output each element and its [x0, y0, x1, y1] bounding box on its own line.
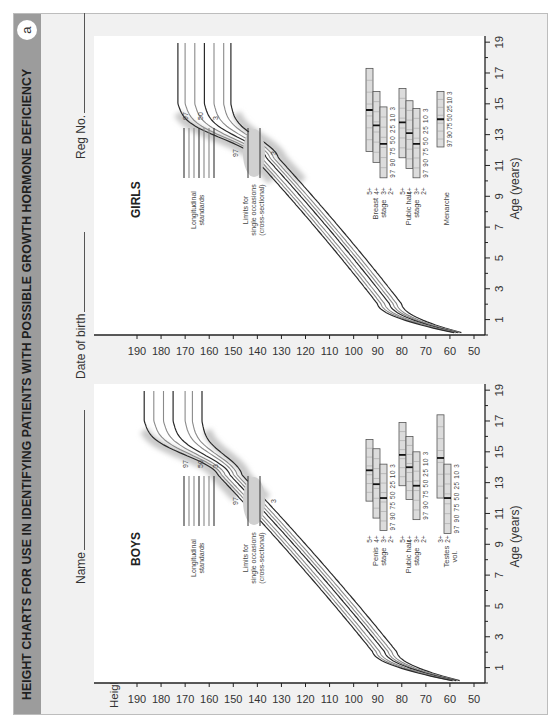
- x-tick-label: 7: [493, 224, 505, 230]
- x-tick-label: 1: [493, 316, 505, 322]
- legend-mark: 50: [197, 112, 204, 120]
- boys-chart: 5060708090100110120130140150160170180190…: [94, 384, 522, 705]
- y-tick-label: 170: [176, 693, 194, 705]
- y-tick-label: 110: [321, 693, 339, 705]
- x-tick-label: 5: [493, 255, 505, 261]
- y-tick-label: 50: [468, 345, 480, 357]
- centile-scale: 97 90 75 50 25 10 3: [389, 106, 396, 177]
- y-tick-label: 110: [321, 345, 339, 357]
- y-tick-label: 50: [468, 693, 480, 705]
- legend-mark: 97: [182, 460, 189, 468]
- stage-label: 2+: [420, 535, 427, 543]
- x-tick-label: 1: [493, 664, 505, 670]
- legend-band-swatch: [243, 477, 265, 525]
- centile-scale: 97 90 75 50 25 10 3: [453, 464, 460, 534]
- y-tick-label: 150: [224, 345, 242, 357]
- y-tick-label: 160: [200, 693, 218, 705]
- legend-mark: 97: [182, 112, 189, 120]
- x-tick-label: 5: [493, 603, 505, 609]
- stage-label: 4+: [373, 187, 380, 195]
- y-tick-label: 170: [176, 345, 194, 357]
- centile-scale: 97 90 75 50 25 10 3: [422, 108, 429, 178]
- puberty-bar: [380, 107, 387, 178]
- puberty-label: vol.: [450, 551, 459, 563]
- stage-label: 5+: [366, 187, 373, 195]
- y-tick-label: 90: [372, 693, 384, 705]
- x-tick-label: 3: [493, 286, 505, 292]
- legend-band-swatch: [243, 129, 265, 177]
- legend-cross-label: Limits for: [242, 543, 249, 572]
- chart-title: BOYS: [129, 532, 143, 566]
- stage-label: 3+: [380, 535, 387, 543]
- x-tick-label: 17: [493, 67, 505, 80]
- stage-label: 5+: [366, 535, 373, 543]
- x-tick-label: 15: [493, 97, 505, 110]
- svg-text:standards: standards: [198, 194, 205, 225]
- stage-label: 2+: [387, 535, 394, 543]
- puberty-label: stage: [379, 547, 388, 565]
- y-tick-label: 70: [420, 693, 432, 705]
- stage-label: 4+: [406, 187, 413, 195]
- x-tick-label: 11: [493, 507, 505, 519]
- x-tick-label: 15: [493, 445, 505, 458]
- y-tick-label: 130: [272, 693, 290, 705]
- chart-title: GIRLS: [129, 181, 143, 218]
- legend-cross-label: single occasions: [250, 532, 258, 584]
- centile-scale: 97 90 75 50 25 10 3: [446, 91, 453, 147]
- y-tick-label: 160: [200, 345, 218, 357]
- x-tick-label: 19: [493, 384, 505, 397]
- y-tick-label: 130: [272, 345, 290, 357]
- stage-label: 4+: [406, 535, 413, 543]
- chart-page: HEIGHT CHARTS FOR USE IN IDENTIFYING PAT…: [13, 13, 548, 715]
- legend-mark: 97: [232, 149, 239, 157]
- puberty-label: stage: [412, 199, 421, 217]
- y-tick-label: 100: [344, 345, 362, 357]
- stage-label: 5+: [399, 535, 406, 543]
- y-tick-label: 60: [444, 345, 456, 357]
- x-tick-label: 13: [493, 476, 505, 489]
- y-tick-label: 180: [152, 345, 170, 357]
- puberty-label: stage: [379, 199, 388, 217]
- puberty-bar: [373, 91, 380, 162]
- puberty-label: stage: [412, 547, 421, 565]
- legend-mark: 3: [212, 464, 219, 468]
- y-tick-label: 60: [444, 693, 456, 705]
- x-axis-label: Age (years): [508, 506, 522, 568]
- y-tick-label: 70: [420, 345, 432, 357]
- y-tick-label: 120: [296, 345, 314, 357]
- centile-scale: 97 90 75 50 25 10 3: [389, 464, 396, 531]
- x-tick-label: 9: [493, 541, 505, 547]
- y-tick-label: 140: [248, 345, 266, 357]
- legend-longitudinal-label: Longitudinal: [190, 539, 198, 577]
- puberty-label: Menarche: [442, 192, 451, 225]
- legend-mark: 50: [197, 460, 204, 468]
- y-tick-label: 80: [396, 693, 408, 705]
- legend-cross-label: single occasions: [250, 184, 258, 236]
- legend-longitudinal-label: Longitudinal: [190, 191, 198, 229]
- svg-text:standards: standards: [198, 542, 205, 573]
- plot-area: [94, 36, 485, 335]
- stage-label: 4+: [373, 535, 380, 543]
- legend-mark: 3: [212, 116, 219, 120]
- legend-cross-label: (cross-sectional): [258, 532, 266, 583]
- plot-area: [94, 384, 485, 683]
- x-tick-label: 13: [493, 128, 505, 141]
- centile-scale: 97 90 75 50 25 10 3: [422, 451, 429, 519]
- y-tick-label: 140: [248, 693, 266, 705]
- stage-label: 2+: [387, 187, 394, 195]
- stage-label: 3+: [380, 187, 387, 195]
- girls-chart: 5060708090100110120130140150160170180190…: [94, 36, 522, 357]
- y-tick-label: 90: [372, 345, 384, 357]
- x-tick-label: 17: [493, 415, 505, 428]
- y-tick-label: 180: [152, 693, 170, 705]
- rotated-chart-page: HEIGHT CHARTS FOR USE IN IDENTIFYING PAT…: [0, 0, 559, 715]
- x-tick-label: 7: [493, 572, 505, 578]
- stage-label: 2+: [444, 535, 451, 543]
- y-tick-label: 80: [396, 345, 408, 357]
- legend-mark: 3: [270, 499, 277, 503]
- legend-mark: 97: [232, 497, 239, 505]
- puberty-bar: [406, 101, 413, 169]
- legend-mark: 3: [270, 151, 277, 155]
- y-tick-label: 190: [128, 345, 146, 357]
- x-tick-label: 11: [493, 159, 505, 171]
